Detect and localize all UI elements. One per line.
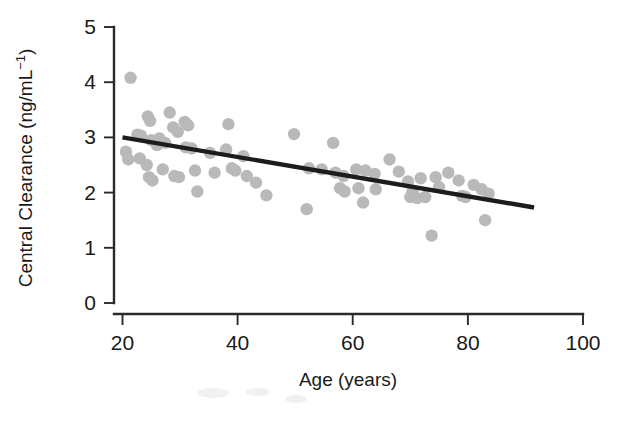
data-point [122, 153, 134, 165]
x-tick-label-20: 20 [111, 331, 134, 354]
data-point [164, 106, 176, 118]
y-axis-title: Central Clearance (ng/mL−1) [13, 49, 37, 288]
data-point [222, 118, 234, 130]
y-tick-label-1: 1 [84, 236, 96, 259]
y-tick-label-0: 0 [84, 291, 96, 314]
y-axis: 5 4 3 2 1 0 [84, 15, 114, 314]
scatter-plot-figure: 5 4 3 2 1 0 20 40 60 80 100 Age ( [0, 0, 629, 426]
data-point [301, 203, 313, 215]
y-tick-label-4: 4 [84, 70, 96, 93]
y-axis-title-tail: ) [15, 49, 36, 55]
regression-line [123, 137, 535, 207]
data-point [370, 183, 382, 195]
plot-canvas: 5 4 3 2 1 0 20 40 60 80 100 Age ( [0, 0, 629, 426]
data-point [414, 172, 426, 184]
data-point [144, 115, 156, 127]
data-point [419, 191, 431, 203]
data-point [327, 137, 339, 149]
data-point [250, 176, 262, 188]
data-point [124, 72, 136, 84]
data-point [393, 165, 405, 177]
y-tick-label-5: 5 [84, 15, 96, 38]
data-point [229, 164, 241, 176]
x-tick-label-100: 100 [565, 331, 600, 354]
data-point [352, 182, 364, 194]
data-point [182, 119, 194, 131]
data-point [442, 167, 454, 179]
data-point [383, 153, 395, 165]
data-point [260, 189, 272, 201]
data-point [479, 214, 491, 226]
y-axis-title-group: Central Clearance (ng/mL−1) [13, 49, 37, 288]
scatter-points-group [120, 72, 495, 242]
x-axis-title: Age (years) [299, 369, 397, 390]
x-tick-label-60: 60 [341, 331, 364, 354]
data-point [146, 174, 158, 186]
data-point [173, 171, 185, 183]
data-point [140, 159, 152, 171]
data-point [338, 185, 350, 197]
x-tick-label-40: 40 [226, 331, 249, 354]
y-tick-label-2: 2 [84, 181, 96, 204]
data-point [425, 229, 437, 241]
x-tick-label-80: 80 [456, 331, 479, 354]
y-axis-title-base: Central Clearance (ng/mL [15, 70, 36, 288]
page-smudge [197, 388, 307, 403]
data-point [208, 167, 220, 179]
regression-line-group [123, 137, 535, 207]
y-tick-label-3: 3 [84, 125, 96, 148]
x-axis: 20 40 60 80 100 [111, 314, 601, 354]
y-axis-title-exponent: −1 [13, 55, 28, 70]
data-point [157, 163, 169, 175]
data-point [357, 196, 369, 208]
data-point [452, 174, 464, 186]
data-point [191, 185, 203, 197]
data-point [189, 164, 201, 176]
data-point [288, 128, 300, 140]
